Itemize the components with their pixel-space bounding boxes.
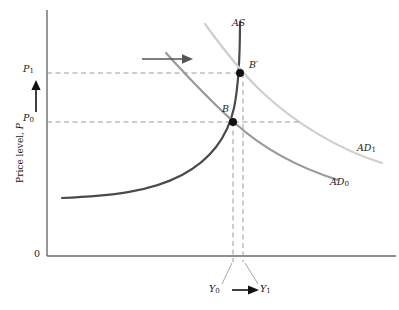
point-b-prime-label: B′ [249, 60, 258, 70]
ad1-curve-label: AD1 [357, 143, 376, 154]
output-rise-arrow-head [248, 285, 259, 294]
ad0-curve [166, 53, 338, 180]
y0-axis-label: Y0 [209, 284, 220, 295]
ad0-curve-label: AD0 [330, 177, 349, 188]
as-curve-label: AS [232, 18, 245, 28]
equilibrium-point-b-prime [236, 69, 244, 77]
equilibrium-point-b [229, 118, 237, 126]
plot-canvas [0, 0, 399, 310]
ad-shift-arrow-head [182, 54, 193, 64]
as-ad-diagram: Price level, P 0 P1 P0 AS AD1 AD0 B′ B Y… [0, 0, 399, 310]
as-curve [62, 22, 240, 198]
price-rise-arrow-head [31, 80, 40, 90]
ad1-curve [205, 24, 382, 163]
y1-leader-line [245, 263, 258, 284]
p0-axis-label: P0 [23, 113, 34, 124]
origin-label: 0 [34, 249, 40, 259]
y-axis-caption-text: Price level, [15, 129, 25, 183]
y0-leader-line [222, 263, 232, 284]
y1-axis-label: Y1 [260, 284, 271, 295]
p1-axis-label: P1 [23, 64, 34, 75]
point-b-label: B [222, 104, 229, 114]
